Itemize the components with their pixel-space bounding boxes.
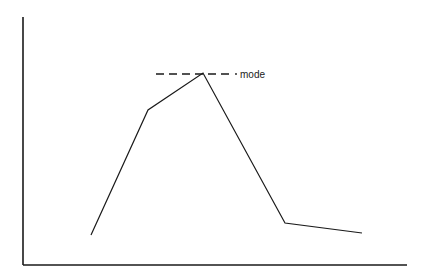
mode-label: mode (240, 69, 265, 80)
frequency-diagram: mode (0, 0, 430, 278)
distribution-line (91, 73, 362, 235)
mode-dot (235, 73, 237, 75)
